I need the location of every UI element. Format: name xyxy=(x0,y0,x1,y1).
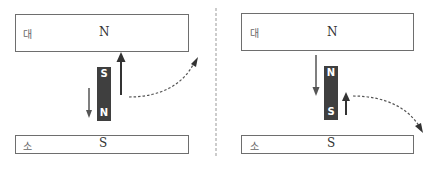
arrows-layer xyxy=(0,0,435,170)
right-up-arrow-icon xyxy=(342,92,350,115)
right-dashed-curve-arrow-icon xyxy=(353,96,423,133)
left-dashed-curve-arrow-icon xyxy=(129,57,198,97)
right-down-arrow-icon xyxy=(313,55,320,96)
left-up-arrow-icon xyxy=(117,52,126,95)
left-down-arrow-icon xyxy=(86,88,92,118)
